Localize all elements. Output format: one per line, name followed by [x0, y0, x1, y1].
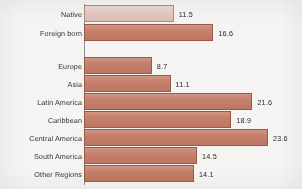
- bar-row: Other Regions14.1: [0, 165, 302, 182]
- bar-value-label: 14.1: [199, 169, 214, 178]
- bar-row: Latin America21.6: [0, 93, 302, 110]
- bar-row: Asia11.1: [0, 75, 302, 92]
- bar-category-label: Latin America: [37, 97, 82, 106]
- bar-value-label: 8.7: [157, 61, 168, 70]
- bar-category-label: Foreign born: [40, 28, 82, 37]
- bar-row: Caribbean18.9: [0, 111, 302, 128]
- bar-chart: Native11.5Foreign born16.6Europe8.7Asia1…: [0, 0, 302, 189]
- bar-category-label: Other Regions: [34, 169, 82, 178]
- bar: [84, 165, 194, 182]
- bar: [84, 5, 174, 22]
- bar: [84, 57, 152, 74]
- bar: [84, 75, 171, 92]
- bar: [84, 24, 213, 41]
- bar-row: Foreign born16.6: [0, 24, 302, 41]
- bar-row: Native11.5: [0, 5, 302, 22]
- bar-value-label: 11.1: [176, 79, 190, 88]
- bar-row: Europe8.7: [0, 57, 302, 74]
- bar-value-label: 18.9: [236, 115, 251, 124]
- bar-row: Central America23.6: [0, 129, 302, 146]
- bar-row: South America14.5: [0, 147, 302, 164]
- bar: [84, 93, 252, 110]
- bar-value-label: 14.5: [202, 151, 217, 160]
- bar-category-label: Native: [61, 9, 82, 18]
- bar-category-label: Central America: [29, 133, 82, 142]
- bar-category-label: Caribbean: [48, 115, 82, 124]
- bar-value-label: 21.6: [257, 97, 272, 106]
- bar-category-label: Europe: [58, 61, 82, 70]
- bar: [84, 111, 231, 128]
- bar-category-label: Asia: [68, 79, 82, 88]
- bar-value-label: 11.5: [179, 9, 193, 18]
- bar: [84, 129, 268, 146]
- bar-category-label: South America: [34, 151, 82, 160]
- bar: [84, 147, 197, 164]
- bar-value-label: 23.6: [273, 133, 288, 142]
- bar-value-label: 16.6: [218, 28, 233, 37]
- plot-area: Native11.5Foreign born16.6Europe8.7Asia1…: [0, 0, 302, 189]
